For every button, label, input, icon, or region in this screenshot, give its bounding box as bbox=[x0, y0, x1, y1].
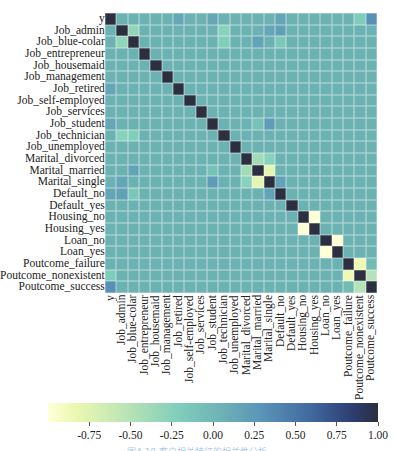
heatmap-cell bbox=[320, 48, 331, 60]
heatmap-cell bbox=[366, 246, 377, 258]
y-axis-labels: yJob_adminJob_blue-colarJob_entrepreneur… bbox=[0, 13, 102, 293]
heatmap-cell bbox=[207, 223, 218, 235]
heatmap-cell bbox=[196, 141, 207, 153]
heatmap-cell bbox=[105, 60, 116, 72]
heatmap-cell bbox=[264, 13, 275, 25]
heatmap-cell bbox=[128, 211, 139, 223]
heatmap-cell bbox=[150, 130, 161, 142]
row-label: Poutcome_failure bbox=[0, 258, 107, 270]
heatmap-cell bbox=[286, 270, 297, 282]
heatmap-cell bbox=[343, 118, 354, 130]
heatmap-cell bbox=[309, 246, 320, 258]
heatmap-cell bbox=[298, 95, 309, 107]
heatmap-cell bbox=[332, 83, 343, 95]
heatmap-cell bbox=[196, 235, 207, 247]
heatmap-cell bbox=[173, 13, 184, 25]
heatmap-cell bbox=[298, 153, 309, 165]
heatmap-cell bbox=[184, 106, 195, 118]
heatmap-cell bbox=[275, 223, 286, 235]
heatmap-cell bbox=[150, 13, 161, 25]
heatmap-cell bbox=[173, 165, 184, 177]
heatmap-cell bbox=[218, 246, 229, 258]
heatmap-cell bbox=[184, 270, 195, 282]
colorbar-tick-label: -0.25 bbox=[160, 429, 184, 441]
heatmap-cell bbox=[105, 200, 116, 212]
heatmap-cell bbox=[264, 270, 275, 282]
heatmap-cell bbox=[252, 200, 263, 212]
heatmap-cell bbox=[320, 141, 331, 153]
heatmap-cell bbox=[332, 106, 343, 118]
row-label: Housing_yes bbox=[0, 223, 107, 235]
heatmap-cell bbox=[230, 95, 241, 107]
heatmap-cell bbox=[116, 188, 127, 200]
heatmap-cell bbox=[128, 153, 139, 165]
heatmap-cell bbox=[366, 25, 377, 37]
heatmap-cell bbox=[332, 25, 343, 37]
heatmap-cell bbox=[116, 106, 127, 118]
heatmap-cell bbox=[139, 130, 150, 142]
heatmap-cell bbox=[320, 281, 331, 293]
col-label: Marital_divorced bbox=[241, 295, 252, 375]
heatmap-cell bbox=[150, 235, 161, 247]
heatmap-cell bbox=[332, 48, 343, 60]
heatmap-cell bbox=[354, 118, 365, 130]
heatmap-cell bbox=[173, 36, 184, 48]
heatmap-cell bbox=[196, 106, 207, 118]
heatmap-cell bbox=[275, 95, 286, 107]
heatmap-cell bbox=[354, 176, 365, 188]
heatmap-cell bbox=[196, 188, 207, 200]
heatmap-cell bbox=[332, 141, 343, 153]
heatmap-cell bbox=[343, 106, 354, 118]
heatmap-cell bbox=[162, 71, 173, 83]
heatmap-cell bbox=[230, 25, 241, 37]
heatmap-cell bbox=[252, 176, 263, 188]
heatmap-cell bbox=[286, 71, 297, 83]
heatmap-cell bbox=[309, 95, 320, 107]
heatmap-cell bbox=[252, 13, 263, 25]
col-label: y bbox=[105, 295, 116, 301]
heatmap-cell bbox=[309, 188, 320, 200]
heatmap-cell bbox=[241, 106, 252, 118]
heatmap-cell bbox=[162, 130, 173, 142]
heatmap-cell bbox=[298, 13, 309, 25]
heatmap-cell bbox=[343, 71, 354, 83]
heatmap-cell bbox=[275, 60, 286, 72]
heatmap-cell bbox=[252, 258, 263, 270]
heatmap-cell bbox=[275, 281, 286, 293]
heatmap-cell bbox=[320, 165, 331, 177]
heatmap-cell bbox=[196, 118, 207, 130]
heatmap-cell bbox=[184, 165, 195, 177]
heatmap-cell bbox=[275, 270, 286, 282]
heatmap-cell bbox=[162, 176, 173, 188]
heatmap-cell bbox=[309, 270, 320, 282]
heatmap-cell bbox=[184, 223, 195, 235]
heatmap-cell bbox=[139, 118, 150, 130]
heatmap-cell bbox=[354, 106, 365, 118]
heatmap-cell bbox=[320, 60, 331, 72]
heatmap-cell bbox=[162, 270, 173, 282]
heatmap-cell bbox=[264, 188, 275, 200]
heatmap-cell bbox=[196, 176, 207, 188]
heatmap-cell bbox=[230, 165, 241, 177]
col-label: Housing_no bbox=[297, 295, 308, 351]
colorbar-tick bbox=[295, 422, 296, 426]
heatmap-cell bbox=[150, 48, 161, 60]
heatmap-cell bbox=[354, 95, 365, 107]
heatmap-cell bbox=[298, 235, 309, 247]
heatmap-cell bbox=[196, 246, 207, 258]
heatmap-cell bbox=[343, 200, 354, 212]
heatmap-cell bbox=[332, 188, 343, 200]
heatmap-cell bbox=[218, 281, 229, 293]
heatmap-cell bbox=[264, 281, 275, 293]
heatmap-cell bbox=[105, 83, 116, 95]
heatmap-cell bbox=[241, 60, 252, 72]
heatmap-cell bbox=[150, 188, 161, 200]
heatmap-cell bbox=[150, 83, 161, 95]
heatmap-cell bbox=[241, 200, 252, 212]
heatmap-cell bbox=[320, 176, 331, 188]
heatmap-cell bbox=[366, 188, 377, 200]
heatmap-cell bbox=[241, 270, 252, 282]
heatmap-cell bbox=[105, 71, 116, 83]
heatmap-cell bbox=[286, 83, 297, 95]
heatmap-cell bbox=[354, 48, 365, 60]
